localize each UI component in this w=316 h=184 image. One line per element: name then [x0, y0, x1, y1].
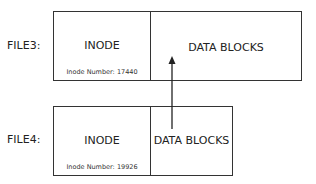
- pointer-arrow-icon: [0, 0, 316, 184]
